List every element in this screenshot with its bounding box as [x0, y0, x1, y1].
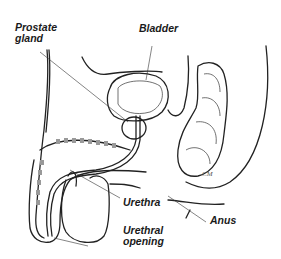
label-urethra: Urethra	[123, 197, 160, 208]
label-urethral-opening: Urethral opening	[123, 225, 164, 247]
anatomy-diagram: CM Prostate gland Bladder Urethra Anus U…	[0, 0, 281, 259]
artist-signature: CM	[202, 170, 214, 178]
label-anus: Anus	[210, 215, 236, 226]
corpus-cavernosum-pattern	[36, 138, 116, 205]
label-prostate-gland: Prostate gland	[15, 22, 57, 44]
label-bladder: Bladder	[139, 23, 178, 34]
